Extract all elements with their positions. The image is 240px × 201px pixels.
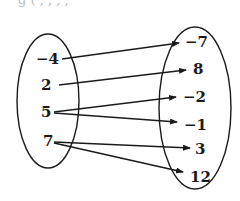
mapping-arrow (59, 70, 186, 85)
domain-value: 2 (41, 76, 51, 94)
mapping-arrow (54, 97, 176, 112)
domain-value: 7 (43, 132, 53, 150)
range-value: −2 (183, 88, 206, 106)
range-ellipse (159, 27, 231, 189)
range-value: 12 (190, 168, 211, 186)
range-value: 3 (195, 140, 205, 158)
range-value: −7 (185, 33, 208, 51)
header-fragment: g ( , , , , (18, 0, 69, 7)
domain-value: 5 (41, 103, 51, 121)
mapping-arrow (62, 43, 179, 59)
range-value: −1 (184, 116, 207, 134)
domain-value: −4 (36, 50, 59, 68)
mapping-diagram: g ( , , , , −4 2 5 7 −7 8 −2 −1 3 12 (0, 0, 240, 201)
range-value: 8 (193, 60, 203, 78)
